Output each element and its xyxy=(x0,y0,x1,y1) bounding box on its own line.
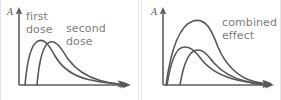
dose-response-figure: A first dose second dose xyxy=(0,0,281,100)
first-dose-label-line1: first xyxy=(26,11,53,24)
y-axis-label-left: A xyxy=(7,8,14,17)
first-dose-label: first dose xyxy=(26,11,53,36)
y-axis-left xyxy=(16,7,23,85)
right-panel-plot xyxy=(140,0,281,100)
panel-combined-effect: A combined effect xyxy=(140,0,281,100)
panel-first-and-second-dose: A first dose second dose xyxy=(0,0,141,100)
x-axis-left xyxy=(19,81,131,88)
combined-effect-label: combined effect xyxy=(222,17,277,42)
first-dose-label-line2: dose xyxy=(26,24,53,37)
left-panel-plot xyxy=(0,0,141,100)
second-dose-label-line2: dose xyxy=(66,36,106,49)
combined-effect-label-line2: effect xyxy=(222,30,277,43)
second-dose-label-line1: second xyxy=(66,23,106,36)
second-dose-label: second dose xyxy=(66,23,106,48)
y-axis-right xyxy=(160,7,167,85)
y-axis-label-right: A xyxy=(151,8,158,17)
combined-effect-label-line1: combined xyxy=(222,17,277,30)
